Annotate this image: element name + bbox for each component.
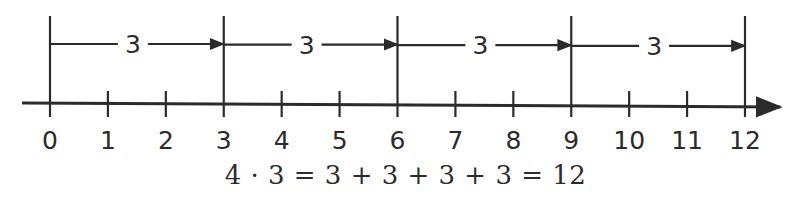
tick-labels: 0123456789101112	[42, 126, 761, 155]
jump-label: 3	[125, 30, 141, 59]
tick-label-8: 8	[505, 126, 521, 155]
tick-label-11: 11	[671, 126, 703, 155]
tick-label-1: 1	[100, 126, 116, 155]
axis-line	[22, 103, 780, 107]
tick-label-9: 9	[563, 126, 579, 155]
jump-label: 3	[646, 32, 662, 61]
tick-label-6: 6	[390, 126, 406, 155]
tick-label-5: 5	[332, 126, 348, 155]
equation-text: 4 · 3 = 3 + 3 + 3 + 3 = 12	[0, 160, 811, 190]
number-line-axis	[22, 103, 780, 107]
tick-label-12: 12	[729, 126, 761, 155]
tick-label-0: 0	[42, 126, 58, 155]
tick-label-7: 7	[447, 126, 463, 155]
tick-label-2: 2	[158, 126, 174, 155]
jump-1: 3	[50, 30, 224, 59]
jump-4: 3	[571, 32, 745, 61]
tick-label-3: 3	[216, 126, 232, 155]
jump-3: 3	[398, 31, 572, 60]
jump-2: 3	[224, 31, 398, 60]
jump-label: 3	[472, 31, 488, 60]
tick-label-4: 4	[274, 126, 290, 155]
jump-label: 3	[299, 31, 315, 60]
tick-marks	[50, 16, 745, 117]
tick-label-10: 10	[613, 126, 645, 155]
